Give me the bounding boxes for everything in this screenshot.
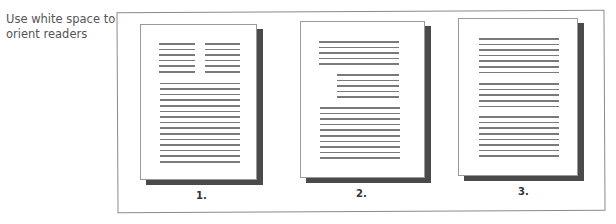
text-line <box>337 96 399 98</box>
text-line <box>159 71 195 73</box>
page-label-1: 1. <box>196 190 207 201</box>
text-line <box>159 49 195 51</box>
text-line <box>320 118 400 120</box>
text-line <box>319 47 399 49</box>
text-line <box>160 88 240 90</box>
page-example-3 <box>458 18 578 176</box>
text-line <box>337 91 399 93</box>
text-line <box>479 139 559 141</box>
page-example-2 <box>300 21 425 178</box>
text-line <box>160 139 240 141</box>
text-line <box>160 161 240 163</box>
text-line <box>320 146 400 148</box>
text-line <box>160 144 240 146</box>
text-line <box>479 38 559 40</box>
text-line <box>337 85 399 87</box>
text-line <box>479 106 559 108</box>
text-line <box>160 99 240 101</box>
text-line <box>479 49 559 51</box>
text-line <box>160 122 240 124</box>
text-line <box>205 71 240 73</box>
caption: Use white space to orient readers <box>6 12 116 42</box>
text-line <box>160 105 240 107</box>
text-line <box>479 44 559 46</box>
text-line <box>159 54 195 56</box>
text-line <box>479 83 559 85</box>
text-line <box>479 66 559 68</box>
text-line <box>320 141 400 143</box>
text-line <box>319 41 399 43</box>
text-line <box>319 63 399 65</box>
text-line <box>320 107 400 109</box>
text-line <box>205 49 240 51</box>
text-line <box>337 74 399 76</box>
text-line <box>479 60 559 62</box>
text-line <box>205 54 240 56</box>
page-label-3: 3. <box>518 186 529 197</box>
text-line <box>160 83 240 85</box>
text-line <box>205 60 240 62</box>
text-line <box>479 72 559 74</box>
text-line <box>479 133 559 135</box>
text-line <box>205 65 240 67</box>
text-line <box>320 157 400 159</box>
text-line <box>479 127 559 129</box>
text-line <box>479 94 559 96</box>
text-line <box>479 155 559 157</box>
text-line <box>479 100 559 102</box>
text-line <box>320 124 400 126</box>
text-line <box>159 65 195 67</box>
text-line <box>160 133 240 135</box>
text-line <box>479 116 559 118</box>
text-line <box>337 80 399 82</box>
text-line <box>160 155 240 157</box>
text-line <box>205 43 240 45</box>
page-example-1 <box>140 24 257 180</box>
text-line <box>160 150 240 152</box>
text-line <box>320 113 400 115</box>
text-line <box>479 150 559 152</box>
text-line <box>479 122 559 124</box>
text-line <box>159 60 195 62</box>
text-line <box>160 94 240 96</box>
text-line <box>479 144 559 146</box>
text-line <box>160 111 240 113</box>
text-line <box>319 58 399 60</box>
text-line <box>160 116 240 118</box>
text-line <box>320 129 400 131</box>
text-line <box>159 43 195 45</box>
text-line <box>320 135 400 137</box>
text-line <box>319 52 399 54</box>
text-line <box>160 127 240 129</box>
text-line <box>479 55 559 57</box>
text-line <box>479 89 559 91</box>
page-label-2: 2. <box>356 188 367 199</box>
text-line <box>320 152 400 154</box>
